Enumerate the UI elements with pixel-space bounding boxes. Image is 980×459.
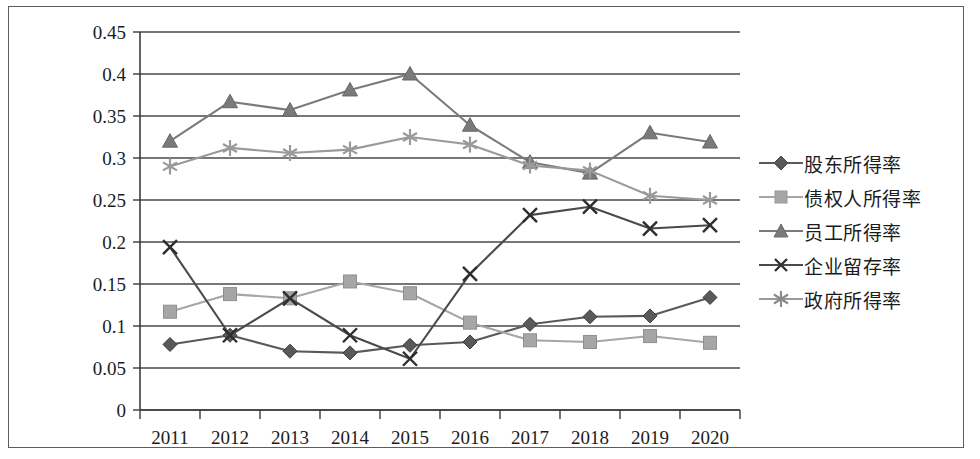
y-tick-label: 0.45 [93,22,126,43]
data-point [403,67,418,81]
data-point [704,336,717,349]
legend-label-4: 政府所得率 [804,286,902,313]
data-point [584,335,597,348]
data-point [703,290,717,304]
data-point [343,328,357,342]
x-tick-label: 2017 [511,427,549,448]
data-point [404,287,417,300]
y-tick-label: 0.15 [93,274,126,295]
data-point [283,344,297,358]
data-point [524,334,537,347]
y-tick-label: 0.2 [102,232,126,253]
legend-label-3: 企业留存率 [804,252,902,279]
data-point [164,305,177,318]
data-point [224,288,237,301]
data-point [464,316,477,329]
x-tick-label: 2011 [151,427,188,448]
data-point [343,346,357,360]
y-tick-label: 0.05 [93,358,126,379]
y-tick-label: 0 [117,400,127,421]
legend-item-0[interactable]: 股东所得率 [758,146,973,180]
series-line [170,297,710,352]
legend-label-2: 员工所得率 [804,218,902,245]
data-point [643,125,658,139]
legend-label-0: 股东所得率 [804,150,902,177]
y-tick-label: 0.1 [102,316,126,337]
y-tick-label: 0.25 [93,190,126,211]
legend-item-1[interactable]: 债权人所得率 [758,180,973,214]
legend-item-2[interactable]: 员工所得率 [758,214,973,248]
series-1 [164,275,717,349]
y-tick-label: 0.3 [102,148,126,169]
x-tick-label: 2012 [211,427,249,448]
series-line [170,207,710,359]
data-point [223,94,238,108]
data-point [523,317,537,331]
series-line [170,281,710,342]
legend-label-1: 债权人所得率 [804,184,921,211]
legend-marker-asterisk-icon [758,286,804,312]
chart-figure: 00.050.10.150.20.250.30.350.40.452011201… [0,0,980,459]
legend-item-4[interactable]: 政府所得率 [758,282,973,316]
chart-legend: 股东所得率 债权人所得率 员工所得率 企业留存率 [758,146,973,316]
data-point [163,337,177,351]
data-point [163,134,178,148]
x-tick-label: 2015 [391,427,429,448]
legend-marker-diamond-icon [758,150,804,176]
x-tick-label: 2014 [331,427,370,448]
series-4 [163,129,717,208]
data-point [163,158,177,174]
y-tick-label: 0.4 [102,64,126,85]
data-point [463,335,477,349]
series-2 [163,67,718,180]
data-point [583,310,597,324]
x-tick-label: 2020 [691,427,729,448]
legend-marker-square-icon [758,184,804,210]
y-tick-label: 0.35 [93,106,126,127]
legend-item-3[interactable]: 企业留存率 [758,248,973,282]
data-point [643,309,657,323]
x-tick-label: 2016 [451,427,489,448]
x-tick-label: 2018 [571,427,609,448]
data-point [463,267,477,281]
data-point [644,330,657,343]
data-point [344,275,357,288]
series-3 [163,200,717,366]
data-point [403,352,417,366]
legend-marker-cross-icon [758,252,804,278]
legend-marker-triangle-icon [758,218,804,244]
x-tick-label: 2019 [631,427,669,448]
x-tick-label: 2013 [271,427,309,448]
